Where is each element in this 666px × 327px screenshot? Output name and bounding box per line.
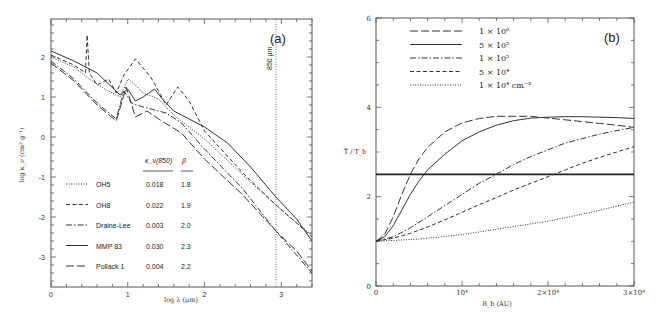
- legend-header-kappa: κ_ν(850): [145, 157, 172, 165]
- x-tick-label: 3: [279, 291, 283, 298]
- legend-beta: 2.0: [181, 222, 191, 229]
- panel-b: 010⁴2×10⁴3×10⁴0246 (b) 1 × 10⁶5 × 10⁵1 ×…: [344, 15, 645, 309]
- x-tick-label: 1: [126, 291, 130, 298]
- panel-b-label: (b): [604, 30, 620, 45]
- y-tick-label: -3: [39, 254, 45, 261]
- curve-pollack-1: [51, 63, 312, 271]
- x-tick-label: 3×10⁴: [623, 289, 645, 297]
- legend-kappa: 0.003: [146, 222, 164, 229]
- y-tick-label: 1: [41, 94, 45, 101]
- y-tick-label: 2: [41, 54, 45, 61]
- y-tick-label: 0: [41, 134, 45, 141]
- legend-kappa: 0.018: [146, 181, 164, 188]
- legend-beta: 1.8: [181, 181, 191, 188]
- 850-micron-label: 850 μm: [266, 46, 274, 70]
- y-tick-label: -1: [39, 174, 45, 181]
- panel-a-x-axis-label: log λ (μm): [164, 296, 198, 304]
- legend-label: 1 × 10⁴ cm⁻³: [479, 81, 531, 90]
- legend-header-beta: β: [181, 157, 186, 165]
- y-tick-label: -2: [39, 214, 45, 221]
- legend-name: Pollack 1: [96, 263, 125, 270]
- curve-draine-lee: [51, 61, 312, 273]
- legend-label: 5 × 10⁵: [479, 41, 509, 50]
- curve-density: [376, 147, 634, 242]
- x-tick-label: 0: [374, 289, 378, 297]
- panel-b-curves: [376, 116, 634, 241]
- panel-a-y-axis-label: log κ_ν (cm² g⁻¹): [18, 127, 26, 183]
- legend-name: MMP 83: [96, 243, 122, 250]
- legend-beta: 2.3: [181, 243, 191, 250]
- y-tick-label: 6: [367, 15, 372, 23]
- x-tick-label: 0: [49, 291, 53, 298]
- y-tick-label: 4: [367, 104, 372, 112]
- legend-label: 1 × 10⁵: [479, 54, 509, 63]
- y-tick-label: 0: [367, 283, 371, 291]
- x-tick-label: 2×10⁴: [537, 289, 559, 297]
- y-tick-label: 2: [367, 193, 371, 201]
- legend-beta: 1.9: [181, 202, 191, 209]
- legend-kappa: 0.030: [146, 243, 164, 250]
- figure: 0123-3-2-1012 850 μm (a) κ_ν(850) β OH50…: [0, 0, 666, 327]
- legend-name: Draine-Lee: [96, 222, 131, 229]
- panel-a: 0123-3-2-1012 850 μm (a) κ_ν(850) β OH50…: [18, 19, 312, 304]
- legend-name: OH5: [96, 181, 111, 188]
- curve-density: [376, 127, 634, 241]
- legend-beta: 2.2: [181, 263, 191, 270]
- curve-density: [376, 202, 634, 241]
- panel-b-x-axis-label: R_b (AU): [482, 300, 512, 308]
- panel-a-label: (a): [270, 31, 286, 46]
- legend-kappa: 0.004: [146, 263, 164, 270]
- legend-label: 1 × 10⁶: [479, 27, 509, 36]
- legend-label: 5 × 10⁴: [479, 68, 509, 77]
- legend-name: OH8: [96, 202, 111, 209]
- x-tick-label: 10⁴: [456, 289, 468, 297]
- legend-kappa: 0.022: [146, 202, 164, 209]
- panel-a-tick-labels: 0123-3-2-1012: [39, 54, 284, 299]
- x-tick-label: 2: [203, 291, 207, 298]
- panel-b-y-axis-label: T̄ / T_b: [344, 148, 366, 156]
- panel-a-legend: κ_ν(850) β OH50.0181.8OH80.0221.9Draine-…: [66, 157, 193, 270]
- panel-b-legend: 1 × 10⁶5 × 10⁵1 × 10⁵5 × 10⁴1 × 10⁴ cm⁻³: [410, 27, 531, 90]
